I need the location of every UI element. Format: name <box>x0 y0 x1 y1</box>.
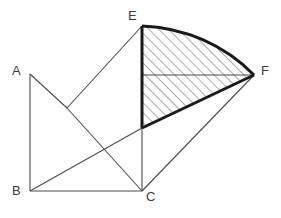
geometry-canvas <box>0 0 281 218</box>
geometry-figure: A B C E F <box>0 0 281 218</box>
segment-V-E <box>67 26 142 108</box>
vertex-label-a: A <box>12 64 21 77</box>
vertex-label-c: C <box>146 190 155 203</box>
vertex-label-f: F <box>261 64 269 77</box>
hatched-sector-EDF <box>142 26 254 128</box>
vertex-label-e: E <box>128 9 137 22</box>
segment-A-V <box>30 74 67 108</box>
segment-B-D <box>30 128 142 191</box>
vertex-label-b: B <box>12 184 21 197</box>
